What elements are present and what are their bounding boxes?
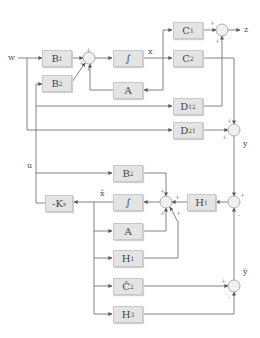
sum-junction-yhat bbox=[228, 280, 240, 292]
block-Ks: -Ks bbox=[45, 195, 73, 212]
sign: + bbox=[240, 192, 245, 198]
sign: + bbox=[210, 20, 215, 26]
block-C1: C1 bbox=[173, 22, 203, 39]
block-B1: B1 bbox=[42, 50, 72, 67]
sign: + bbox=[86, 66, 91, 72]
sign: + bbox=[160, 188, 165, 194]
sign: - bbox=[238, 212, 240, 218]
block-B2-top: B2 bbox=[42, 75, 72, 92]
sum-junction-right bbox=[228, 196, 240, 208]
sum-junction-top bbox=[83, 52, 95, 64]
block-C2-hat: Ĉ2 bbox=[113, 278, 143, 295]
signal-x-label: x bbox=[148, 48, 153, 56]
signal-u-label: u bbox=[27, 162, 32, 170]
sign: + bbox=[215, 38, 220, 44]
block-B2-bottom: B2 bbox=[113, 165, 143, 182]
sign: + bbox=[222, 134, 227, 140]
sign: + bbox=[221, 278, 226, 284]
block-H1-bottom: H1 bbox=[113, 250, 143, 267]
sign: + bbox=[86, 47, 91, 53]
sign: + bbox=[176, 210, 181, 216]
block-H3: H3 bbox=[113, 306, 143, 323]
signal-y-label: y bbox=[243, 140, 248, 148]
signal-yhat-label: ŷ bbox=[243, 268, 248, 276]
block-integrator-bottom: ∫ bbox=[113, 194, 143, 211]
sign: + bbox=[160, 210, 165, 216]
signal-xhat-label: x̂ bbox=[100, 190, 105, 198]
sign: + bbox=[79, 60, 84, 66]
signal-w-label: w bbox=[8, 54, 15, 62]
block-D21: D21 bbox=[173, 122, 203, 139]
block-A-bottom: A bbox=[113, 223, 143, 240]
block-A-top: A bbox=[113, 82, 143, 99]
block-H1-right: H1 bbox=[187, 194, 216, 211]
block-integrator-top: ∫ bbox=[113, 50, 143, 67]
sum-junction-y bbox=[228, 124, 240, 136]
sign: + bbox=[175, 194, 180, 200]
signal-z-label: z bbox=[244, 26, 248, 34]
block-D12: D12 bbox=[173, 98, 203, 115]
sign: - bbox=[228, 294, 230, 300]
block-C2: C2 bbox=[173, 50, 203, 67]
sign: + bbox=[227, 118, 232, 124]
sum-junction-mid bbox=[160, 196, 172, 208]
sum-junction-z bbox=[216, 24, 228, 36]
